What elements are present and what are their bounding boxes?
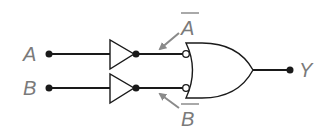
- input-b-label: B: [23, 77, 36, 99]
- a-bar-label: A: [180, 17, 194, 39]
- logic-diagram: A B Y A: [0, 0, 333, 140]
- output-dot: [287, 67, 294, 74]
- or-gate-icon: [186, 43, 253, 98]
- output-y-label: Y: [299, 59, 314, 81]
- b-bar-label: B: [181, 108, 194, 130]
- arrow-b-bar-icon: [160, 94, 179, 108]
- b-bar-annotation: B: [160, 94, 199, 130]
- input-a-label: A: [22, 43, 36, 65]
- circuit-svg: A B Y A: [0, 0, 333, 140]
- inversion-bubble-b-icon: [183, 85, 190, 92]
- input-b: B: [23, 77, 110, 99]
- inverter-b-icon: [110, 74, 134, 103]
- inverter-a-icon: [110, 40, 134, 69]
- input-a: A: [22, 43, 110, 65]
- arrow-a-bar-icon: [160, 33, 179, 49]
- inversion-bubble-a-icon: [183, 51, 190, 58]
